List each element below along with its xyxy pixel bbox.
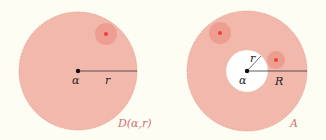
diagram-canvas: α r D(α,r) α r R A [0,0,326,140]
disk-caption: D(α,r) [117,117,152,130]
sample-point [104,32,108,36]
disk-figure: α r D(α,r) [19,12,152,130]
annulus-caption: A [289,117,298,130]
complex-regions-diagram: α r D(α,r) α r R A [0,0,326,140]
center-point [245,69,249,73]
outer-radius-label: R [274,75,283,88]
annulus-figure: α r R A [187,11,307,131]
center-point [76,69,80,73]
sample-point [274,58,278,62]
sample-point [218,31,222,35]
center-label: α [72,74,80,87]
inner-radius-label: r [250,52,256,65]
center-label: α [239,74,247,87]
radius-label: r [105,74,111,87]
